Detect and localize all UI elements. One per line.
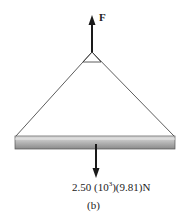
weight-prefix: 2.50 (10	[72, 181, 109, 193]
cable-left	[16, 52, 92, 136]
weight-suffix: )(9.81)N	[112, 181, 150, 193]
weight-label: 2.50 (103)(9.81)N	[72, 180, 150, 193]
cable-right	[92, 52, 174, 136]
figure-caption: (b)	[87, 199, 100, 211]
hook-triangle	[83, 52, 101, 62]
force-arrow-up	[89, 15, 96, 52]
force-label: F	[99, 11, 106, 23]
